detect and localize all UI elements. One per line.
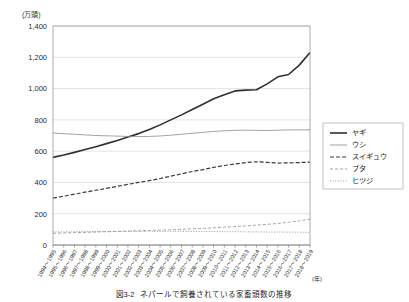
y-axis-tick-label: 1,400 — [28, 22, 47, 31]
caption-text: ネパールで飼養されている家畜頭数の推移 — [140, 289, 292, 299]
x-axis-unit-label: (年) — [312, 275, 322, 283]
figure-caption: 図3-2ネパールで飼養されている家畜頭数の推移 — [116, 289, 293, 299]
legend-label-ブタ: ブタ — [352, 164, 366, 173]
caption-figure-label: 図3-2 — [116, 290, 135, 299]
y-axis-tick-label: 600 — [34, 147, 47, 156]
y-axis-tick-labels: 02004006008001,0001,2001,400 — [28, 22, 47, 250]
legend-label-ウシ: ウシ — [352, 140, 366, 149]
y-axis-tick-label: 400 — [34, 178, 47, 187]
y-axis-unit-label: (万頭) — [22, 11, 41, 19]
y-axis-tick-label: 800 — [34, 116, 47, 125]
y-axis-tick-label: 200 — [34, 210, 47, 219]
legend-label-スイギュウ: スイギュウ — [352, 152, 387, 161]
chart-figure: 02004006008001,0001,2001,400 1994～199519… — [0, 0, 409, 302]
x-axis-tick-labels: 1994～19951995～19961996～19971997～19981998… — [36, 248, 314, 278]
y-axis-tick-label: 1,000 — [28, 84, 47, 93]
chart-plot-area: 02004006008001,0001,2001,400 1994～199519… — [28, 22, 314, 278]
x-axis-tick-marks — [53, 245, 310, 248]
legend-label-ヒツジ: ヒツジ — [352, 176, 373, 185]
legend-label-ヤギ: ヤギ — [352, 128, 366, 137]
y-axis-tick-label: 1,200 — [28, 53, 47, 62]
chart-legend: ヤギウシスイギュウブタヒツジ — [323, 123, 403, 189]
y-axis-tick-label: 0 — [43, 241, 47, 250]
